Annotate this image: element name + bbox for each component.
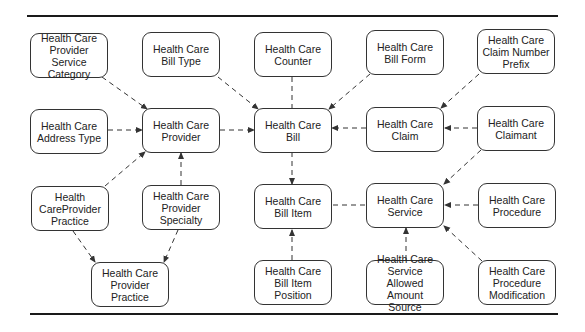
- node-label: Health Care Provider: [146, 119, 216, 143]
- edge-bill-type-to-bill: [218, 77, 258, 109]
- node-provider: Health Care Provider: [142, 108, 220, 153]
- node-bill-type: Health Care Bill Type: [142, 32, 220, 77]
- edge-careprovider-practice-to-provider: [105, 152, 145, 186]
- node-counter: Health Care Counter: [254, 32, 332, 77]
- node-claim-number-prefix: Health Care Claim Number Prefix: [477, 29, 555, 74]
- node-provider-specialty: Health Care Provider Specialty: [142, 185, 220, 230]
- edge-service-category-to-provider: [102, 77, 147, 109]
- node-label: Health Care Claim Number Prefix: [481, 34, 551, 70]
- node-service: Health Care Service: [366, 183, 444, 228]
- node-label: Health Care Bill Type: [146, 43, 216, 67]
- edge-claim-prefix-to-claim: [441, 74, 479, 108]
- node-label: Health Care Counter: [258, 43, 328, 67]
- node-label: Health Care Bill: [258, 119, 328, 143]
- edge-specialty-to-provider-practice: [164, 230, 178, 262]
- node-procedure: Health Care Procedure: [478, 183, 556, 228]
- node-label: Health Care Service Allowed Amount Sourc…: [370, 253, 440, 313]
- node-careprovider-practice: Health CareProvider Practice: [31, 186, 109, 231]
- node-label: Health Care Provider Practice: [95, 267, 165, 303]
- node-service-allowed-amount-source: Health Care Service Allowed Amount Sourc…: [366, 260, 444, 305]
- node-label: Health Care Claim: [370, 118, 440, 142]
- edge-bill-form-to-bill: [329, 74, 370, 109]
- node-label: Health Care Claimant: [481, 117, 551, 141]
- node-label: Health Care Provider Specialty: [146, 190, 216, 226]
- edge-claimant-to-service: [444, 150, 481, 184]
- edge-careprovider-practice-to-provider-practice: [73, 231, 95, 262]
- node-label: Health Care Address Type: [34, 120, 104, 144]
- node-bill-form: Health Care Bill Form: [366, 30, 444, 75]
- edge-procedure-modification-to-service: [444, 226, 482, 261]
- node-bill-item-position: Health Care Bill Item Position: [254, 260, 332, 305]
- node-claim: Health Care Claim: [366, 107, 444, 152]
- node-address-type: Health Care Address Type: [30, 109, 108, 154]
- node-label: Health Care Procedure: [482, 194, 552, 218]
- node-label: Health Care Provider Service Category: [34, 32, 104, 80]
- node-bill: Health Care Bill: [254, 108, 332, 153]
- node-label: Health Care Procedure Modification: [482, 265, 552, 301]
- node-label: Health Care Bill Form: [370, 41, 440, 65]
- node-label: Health Care Bill Item Position: [258, 265, 328, 301]
- node-provider-practice: Health Care Provider Practice: [91, 262, 169, 307]
- node-procedure-modification: Health Care Procedure Modification: [478, 260, 556, 305]
- node-bill-item: Health Care Bill Item: [254, 184, 332, 229]
- node-label: Health Care Service: [370, 194, 440, 218]
- node-label: Health Care Bill Item: [258, 195, 328, 219]
- node-label: Health CareProvider Practice: [35, 191, 105, 227]
- node-provider-service-category: Health Care Provider Service Category: [30, 33, 108, 78]
- node-claimant: Health Care Claimant: [477, 106, 555, 151]
